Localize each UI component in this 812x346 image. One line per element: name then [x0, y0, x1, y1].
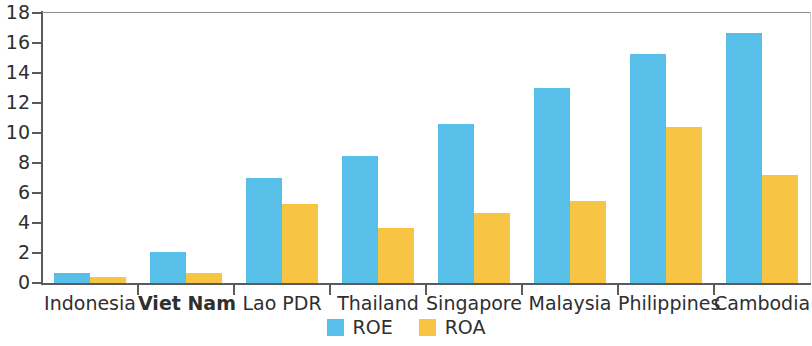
- y-axis-tick: [32, 12, 42, 14]
- y-axis-tick-label: 12: [2, 93, 30, 112]
- bar-roa-malaysia: [570, 201, 606, 284]
- bar-chart: 024681012141618 IndonesiaViet NamLao PDR…: [0, 0, 812, 346]
- x-axis-category-label: Indonesia: [42, 292, 138, 314]
- plot-right-border: [810, 12, 811, 284]
- bar-roe-malaysia: [534, 88, 570, 283]
- bar-roa-cambodia: [762, 175, 798, 283]
- bar-roe-lao-pdr: [246, 178, 282, 283]
- legend-item-roa[interactable]: ROA: [419, 318, 486, 337]
- x-axis-category-label: Singapore: [426, 292, 522, 314]
- x-axis-category-label: Thailand: [330, 292, 426, 314]
- bar-roa-thailand: [378, 228, 414, 284]
- bars-layer: [42, 13, 810, 283]
- y-axis-tick: [32, 102, 42, 104]
- legend-item-roe[interactable]: ROE: [327, 318, 393, 337]
- y-axis-tick-label: 16: [2, 33, 30, 52]
- y-axis-tick-label: 0: [2, 273, 30, 292]
- y-axis-tick: [32, 252, 42, 254]
- x-axis-category-label: Lao PDR: [234, 292, 330, 314]
- bar-roa-singapore: [474, 213, 510, 284]
- bar-roe-viet-nam: [150, 252, 186, 284]
- bar-roe-cambodia: [726, 33, 762, 284]
- x-axis-category-label: Viet Nam: [138, 292, 234, 314]
- y-axis-tick: [32, 132, 42, 134]
- y-axis-tick: [32, 72, 42, 74]
- chart-legend: ROEROA: [0, 318, 812, 337]
- y-axis-tick-label: 2: [2, 243, 30, 262]
- bar-roe-indonesia: [54, 273, 90, 284]
- square-swatch: [419, 319, 436, 336]
- x-axis-category-label: Malaysia: [522, 292, 618, 314]
- y-axis-tick: [32, 42, 42, 44]
- y-axis-tick-label: 4: [2, 213, 30, 232]
- bar-roe-singapore: [438, 124, 474, 283]
- x-axis-category-label: Cambodia: [714, 292, 810, 314]
- bar-roe-philippines: [630, 54, 666, 284]
- bar-roa-lao-pdr: [282, 204, 318, 284]
- y-axis-tick: [32, 192, 42, 194]
- y-axis-tick-label: 14: [2, 63, 30, 82]
- x-axis-category-label: Philippines: [618, 292, 714, 314]
- square-swatch: [327, 319, 344, 336]
- bar-roe-thailand: [342, 156, 378, 284]
- bar-roa-viet-nam: [186, 273, 222, 283]
- y-axis-tick-label: 18: [2, 3, 30, 22]
- y-axis-tick: [32, 222, 42, 224]
- y-axis-tick: [32, 162, 42, 164]
- y-axis-tick-label: 6: [2, 183, 30, 202]
- legend-item-label: ROA: [445, 318, 486, 337]
- bar-roa-philippines: [666, 127, 702, 283]
- y-axis-tick: [32, 282, 42, 284]
- y-axis-tick-label: 8: [2, 153, 30, 172]
- legend-item-label: ROE: [353, 318, 393, 337]
- y-axis-tick-label: 10: [2, 123, 30, 142]
- bar-roa-indonesia: [90, 277, 126, 283]
